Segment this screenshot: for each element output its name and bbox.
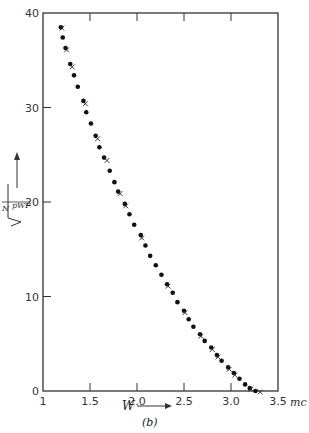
x-tick-label: 2.5 (175, 395, 193, 408)
chart: 11.52.02.53.03.5 010203040 W mc (b) N pW… (0, 0, 309, 433)
y-axis-title-numerator: N (1, 204, 10, 213)
data-point-dot (112, 180, 117, 185)
data-point-dot (148, 254, 153, 259)
data-point-dot (75, 84, 80, 89)
data-point-dot (97, 145, 102, 150)
data-point-dot (170, 290, 175, 295)
x-tick-label: 3.5 (269, 395, 287, 408)
data-point-dot (68, 62, 73, 67)
data-point-dot (253, 389, 258, 394)
x-axis-unit: mc (290, 396, 307, 409)
data-point-dot (84, 110, 89, 115)
plot-border (43, 13, 278, 391)
y-axis-arrow-icon (14, 152, 20, 188)
y-tick-label: 0 (32, 385, 39, 398)
data-point-cross (258, 390, 263, 395)
data-point-dot (72, 73, 77, 78)
data-point-dot (237, 376, 242, 381)
data-point-dot (107, 169, 112, 174)
y-axis-title-denominator: pWF (12, 201, 31, 210)
x-axis-title: W (122, 399, 136, 413)
y-tick-label: 10 (25, 291, 39, 304)
series-dots (59, 25, 258, 393)
data-point-dot (191, 324, 196, 329)
data-point-dot (175, 300, 180, 305)
data-point-dot (132, 222, 137, 227)
y-axis-title: N pWF (1, 184, 31, 226)
data-point-dot (81, 99, 86, 104)
plot-frame (43, 13, 278, 391)
x-axis-ticks: 11.52.02.53.03.5 (40, 13, 287, 408)
y-tick-label: 30 (25, 102, 39, 115)
data-point-dot (143, 243, 148, 248)
data-point-dot (243, 382, 248, 387)
y-tick-label: 40 (25, 7, 39, 20)
data-point-dot (60, 35, 65, 40)
data-point-dot (93, 134, 98, 139)
data-point-dot (159, 272, 164, 277)
data-point-cross (105, 158, 110, 163)
series-crosses (59, 26, 262, 395)
x-tick-label: 1.5 (81, 395, 99, 408)
data-point-dot (154, 263, 159, 268)
data-point-dot (127, 212, 132, 217)
x-tick-label: 1 (40, 395, 47, 408)
data-point-dot (89, 121, 94, 126)
x-tick-label: 3.0 (222, 395, 240, 408)
data-point-dot (202, 339, 207, 344)
data-point-dot (186, 317, 191, 322)
figure-caption: (b) (142, 416, 158, 429)
